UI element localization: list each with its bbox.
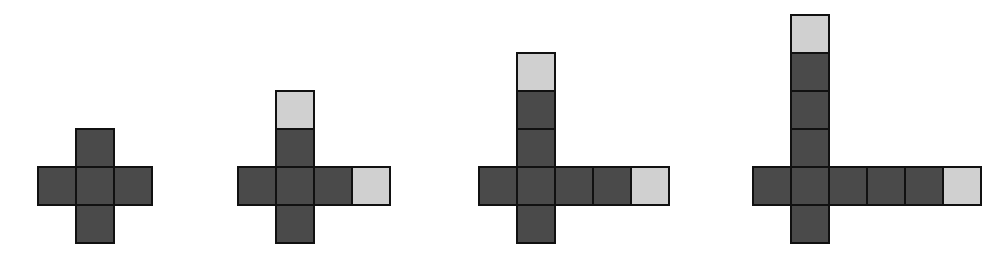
dark-tile [790,166,830,206]
dark-tile [790,128,830,168]
dark-tile [752,166,792,206]
dark-tile [790,204,830,244]
dark-tile [904,166,944,206]
figure-4 [0,0,999,260]
dark-tile [790,90,830,130]
dark-tile [828,166,868,206]
dark-tile [790,52,830,92]
dark-tile [866,166,906,206]
light-tile [790,14,830,54]
light-tile [942,166,982,206]
